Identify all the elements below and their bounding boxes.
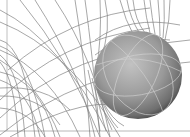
render-canvas xyxy=(0,0,190,137)
